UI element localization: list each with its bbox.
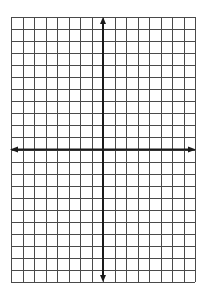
axes bbox=[10, 17, 196, 282]
arrow-down-icon bbox=[100, 275, 106, 282]
arrow-right-icon bbox=[188, 147, 196, 153]
arrow-up-icon bbox=[100, 17, 106, 24]
coordinate-plane bbox=[0, 0, 209, 304]
